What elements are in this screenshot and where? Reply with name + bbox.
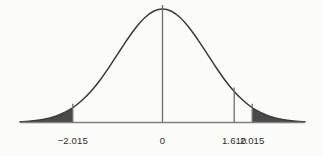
chart-canvas: −2.015 0 1.610 2.015 [0,0,323,156]
distribution-chart-figure: −2.015 0 1.610 2.015 [0,0,323,156]
tick-label-left-boundary: −2.015 [58,135,88,146]
tick-label-right-boundary: 2.015 [240,135,265,146]
tick-label-center: 0 [160,135,165,146]
chart-background [0,0,323,156]
